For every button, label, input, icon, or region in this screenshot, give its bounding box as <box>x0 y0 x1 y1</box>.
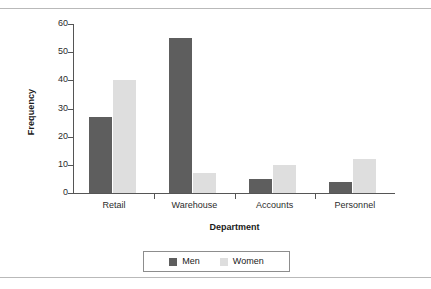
bar-group <box>154 24 234 193</box>
legend-label: Men <box>182 257 200 266</box>
y-axis-title-text: Frequency <box>26 72 36 152</box>
y-tick-label: 20 <box>46 132 68 141</box>
x-tick-mark <box>235 194 236 199</box>
legend-swatch-men-icon <box>169 258 177 266</box>
legend-swatch-women-icon <box>220 258 228 266</box>
bar-group <box>235 24 315 193</box>
x-tick-label: Retail <box>74 200 154 211</box>
x-tick-mark <box>154 194 155 199</box>
x-tick-label: Warehouse <box>154 200 234 211</box>
y-tick-label: 10 <box>46 160 68 169</box>
bar-warehouse-women <box>193 173 216 193</box>
y-tick-label: 60 <box>46 19 68 28</box>
bar-group <box>74 24 154 193</box>
x-tick-mark <box>315 194 316 199</box>
bar-accounts-men <box>249 179 272 193</box>
y-tick-label: 40 <box>46 75 68 84</box>
y-tick-label: 0 <box>46 188 68 197</box>
x-tick-label: Accounts <box>235 200 315 211</box>
bar-personnel-women <box>353 159 376 193</box>
bar-personnel-men <box>329 182 352 193</box>
x-tick-label: Personnel <box>315 200 395 211</box>
legend-item-men[interactable]: Men <box>169 257 200 266</box>
legend-item-women[interactable]: Women <box>220 257 264 266</box>
bars-area <box>74 24 395 193</box>
chart-legend: MenWomen <box>143 251 290 272</box>
figure-container: Frequency 0102030405060 RetailWarehouseA… <box>0 0 431 289</box>
bar-chart-plot: Frequency 0102030405060 RetailWarehouseA… <box>0 0 431 289</box>
y-axis-tick-labels: 0102030405060 <box>46 0 68 289</box>
bar-retail-women <box>113 80 136 193</box>
bar-retail-men <box>89 117 112 193</box>
legend-label: Women <box>233 257 264 266</box>
y-axis-title: Frequency <box>26 0 40 72</box>
bar-group <box>315 24 395 193</box>
x-axis-category-labels: RetailWarehouseAccountsPersonnel <box>74 200 395 214</box>
y-tick-label: 30 <box>46 104 68 113</box>
bar-warehouse-men <box>169 38 192 193</box>
y-tick-label: 50 <box>46 47 68 56</box>
x-axis-title: Department <box>74 222 395 232</box>
bar-accounts-women <box>273 165 296 193</box>
